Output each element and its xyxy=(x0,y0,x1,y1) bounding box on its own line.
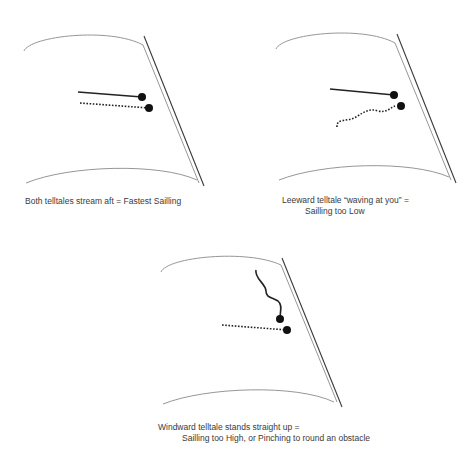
windward-telltale xyxy=(330,89,394,95)
caption-too-low-line2: Sailling too Low xyxy=(305,206,365,216)
sail-foot-curve xyxy=(163,390,334,404)
mast-line xyxy=(282,258,342,407)
caption-too-high-line2: Sailling too High, or Pinching to round … xyxy=(182,433,370,443)
panel-fastest-sailing xyxy=(24,35,204,186)
leeward-telltale xyxy=(222,325,287,330)
sail-foot-curve xyxy=(26,168,197,183)
sail-head-curve xyxy=(161,256,281,272)
leeward-telltale-dot xyxy=(283,326,291,334)
mast-line xyxy=(144,36,204,186)
windward-telltale xyxy=(78,92,142,97)
sail-luff-line xyxy=(395,43,451,180)
mast-line xyxy=(397,34,456,183)
windward-telltale-wavy xyxy=(256,270,281,318)
leeward-telltale-dot xyxy=(397,102,405,110)
leeward-telltale-dot xyxy=(145,104,153,112)
windward-telltale-dot xyxy=(138,93,146,101)
leeward-telltale xyxy=(80,103,149,108)
leeward-telltale-wavy xyxy=(337,106,395,127)
sail-luff-line xyxy=(143,45,199,183)
telltale-diagram xyxy=(0,0,475,449)
caption-too-low-line1: Leeward telltale “waving at you” = xyxy=(282,195,409,205)
windward-telltale-dot xyxy=(276,315,284,323)
sail-head-curve xyxy=(24,35,143,51)
caption-fastest-sailing: Both telltales stream aft = Fastest Sail… xyxy=(25,196,181,206)
windward-telltale-dot xyxy=(390,91,398,99)
sail-head-curve xyxy=(276,33,395,49)
sail-foot-curve xyxy=(279,166,449,180)
sail-luff-line xyxy=(281,265,337,402)
panel-sailing-too-low xyxy=(276,33,456,183)
panel-sailing-too-high xyxy=(161,256,342,407)
caption-too-high-line1: Windward telltale stands straight up = xyxy=(158,422,300,432)
